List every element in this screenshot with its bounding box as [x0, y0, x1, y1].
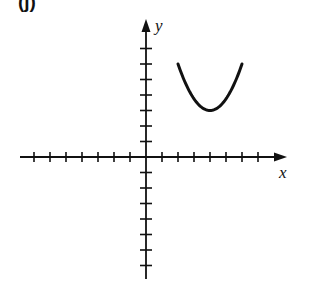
y-axis-label: y: [153, 16, 163, 35]
parabola-curve: [178, 64, 242, 111]
axes: [20, 19, 287, 279]
x-axis-label: x: [278, 163, 287, 182]
x-axis-arrow-icon: [274, 153, 287, 162]
y-axis-arrow-icon: [142, 19, 151, 32]
coordinate-plane: x y: [0, 0, 309, 288]
curves: [178, 64, 242, 111]
